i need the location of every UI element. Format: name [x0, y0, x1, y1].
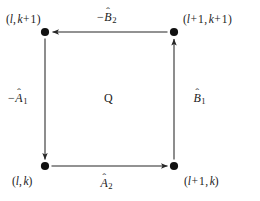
edge-bottom-subscript: 2	[108, 181, 113, 191]
edge-top-subscript: 2	[112, 15, 117, 25]
vertex-tl-second: k	[17, 13, 22, 25]
edge-left-subscript: 1	[23, 96, 28, 106]
edge-right-subscript: 1	[201, 96, 206, 106]
vertex-br-close: )	[215, 175, 219, 187]
commutative-square-diagram: (l,k+1) (l+1,k+1) (l,k) (l+1,k) −̂B2 −̂A…	[0, 0, 260, 201]
edge-left-symbol: A	[15, 91, 22, 105]
region-label: Q	[104, 92, 113, 104]
edge-bottom-symbol: A	[101, 176, 108, 190]
edge-bottom-symbol-group: ̂A	[101, 177, 108, 189]
edge-right-symbol: B	[194, 91, 201, 105]
edge-left-symbol-group: ̂A	[15, 92, 22, 104]
vertex-node-bottom-left	[41, 162, 49, 170]
vertex-label-bottom-left: (l,k)	[12, 176, 32, 188]
vertex-bl-close: )	[29, 175, 33, 187]
vertex-node-bottom-right	[170, 162, 178, 170]
vertex-tr-close: )	[228, 13, 232, 25]
vertex-tl-offset: 1	[30, 13, 37, 25]
vertex-label-top-right: (l+1,k+1)	[183, 14, 232, 26]
vertex-node-top-right	[170, 28, 178, 36]
diagram-canvas	[0, 0, 260, 201]
edge-right-symbol-group: ̂B	[194, 92, 201, 104]
vertex-tr-op1: +	[190, 13, 198, 25]
vertex-label-top-left: (l,k+1)	[6, 14, 41, 26]
vertex-tl-op: +	[23, 13, 31, 25]
vertex-tr-second: k	[209, 13, 214, 25]
edge-label-top: −̂B2	[97, 11, 116, 25]
vertex-tl-close: )	[37, 13, 41, 25]
vertex-node-top-left	[41, 28, 49, 36]
edge-top-sign: −	[97, 10, 104, 24]
edge-label-left: −̂A1	[8, 92, 27, 106]
vertex-br-op1: +	[191, 175, 199, 187]
edge-label-right: ̂B1	[193, 92, 206, 106]
edge-label-bottom: ̂A2	[100, 177, 113, 191]
edge-top-symbol: B	[104, 10, 111, 24]
edge-top-symbol-group: ̂B	[104, 11, 111, 23]
vertex-label-bottom-right: (l+1,k)	[184, 176, 219, 188]
